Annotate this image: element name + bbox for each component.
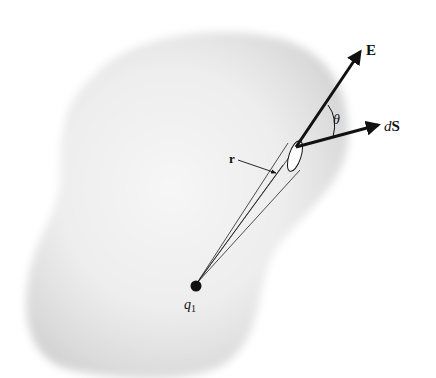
gauss-law-diagram: E dS θ r q1 — [0, 0, 436, 378]
label-theta: θ — [333, 112, 340, 127]
label-q: q — [184, 297, 191, 312]
label-dS-S: S — [392, 118, 400, 134]
label-E: E — [366, 42, 376, 58]
label-q-subscript: 1 — [191, 303, 196, 314]
label-dS: dS — [384, 118, 400, 134]
point-charge — [191, 281, 202, 292]
gaussian-surface — [26, 32, 348, 378]
label-r: r — [229, 151, 235, 166]
